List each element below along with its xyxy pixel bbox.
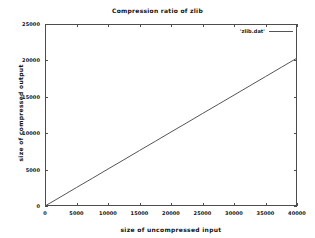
tick-marks — [45, 24, 298, 207]
chart-canvas — [0, 0, 315, 238]
y-axis-label: size of compressed output — [17, 43, 24, 183]
gnuplot-chart: Compression ratio of zlib 05000100001500… — [0, 0, 315, 238]
x-axis-label: size of uncompressed input — [45, 226, 297, 233]
y-tick-label: 25000 — [0, 21, 40, 27]
x-tick-label: 40000 — [277, 210, 315, 216]
legend-entry-label: 'zlib.dat' — [240, 28, 265, 34]
legend: 'zlib.dat' — [240, 28, 293, 34]
y-axis-label-wrapper: size of compressed output — [17, 43, 27, 183]
line-sample-icon — [269, 31, 293, 32]
y-tick-label: 0 — [0, 203, 40, 209]
data-series-layer — [45, 58, 297, 206]
